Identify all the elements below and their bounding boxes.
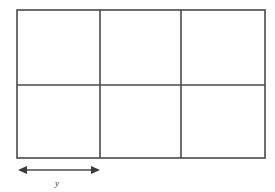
- dimension-label-y: y: [54, 178, 59, 188]
- cell-r2-c2: [100, 85, 181, 158]
- cell-r2-c1: [17, 85, 100, 158]
- cell-r1-c1: [17, 10, 100, 85]
- grid-cells: [17, 10, 265, 158]
- cell-r1-c3: [181, 10, 265, 85]
- cell-r2-c3: [181, 85, 265, 158]
- figure-canvas: y: [0, 0, 275, 192]
- cell-r1-c2: [100, 10, 181, 85]
- geometry-figure: y: [0, 0, 275, 192]
